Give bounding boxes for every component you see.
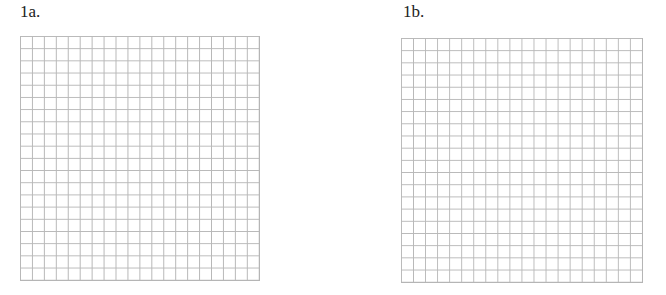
problem-1b-label: 1b.	[403, 3, 424, 20]
graph-paper-grid-1b	[401, 38, 643, 283]
graph-paper-grid-1a	[20, 36, 260, 281]
problem-1a-label: 1a.	[20, 3, 40, 20]
